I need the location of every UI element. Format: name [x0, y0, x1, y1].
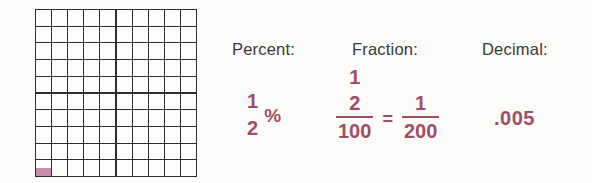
grid-cell	[117, 27, 132, 43]
percent-fraction-stack: 1 2	[247, 88, 258, 142]
grid-cell	[117, 160, 132, 176]
grid-cell	[84, 94, 99, 110]
grid-cell	[52, 60, 67, 76]
grid-cell	[84, 43, 99, 59]
grid-cell	[181, 27, 196, 43]
grid-cell	[84, 144, 99, 160]
grid-cell	[149, 160, 164, 176]
grid-cell	[181, 94, 196, 110]
grid-cell	[52, 144, 67, 160]
grid-cell	[36, 10, 51, 26]
grid-cell	[52, 10, 67, 26]
grid-cell	[117, 43, 132, 59]
percent-denominator: 2	[247, 115, 258, 142]
grid-cell	[165, 77, 180, 93]
grid-cell	[181, 110, 196, 126]
complex-fraction: 1 2 100	[336, 64, 373, 144]
grid-cell	[52, 94, 67, 110]
grid-cell	[100, 77, 115, 93]
grid-cell	[36, 27, 51, 43]
grid-cell	[149, 77, 164, 93]
grid-cell	[117, 144, 132, 160]
grid-cell	[68, 110, 83, 126]
grid-cell	[100, 94, 115, 110]
grid-cell	[68, 77, 83, 93]
grid-cell	[36, 60, 51, 76]
grid-cell	[133, 77, 148, 93]
grid-cell	[117, 10, 132, 26]
grid-cell	[68, 60, 83, 76]
grid-cell	[181, 10, 196, 26]
grid-cell	[181, 127, 196, 143]
grid-cell	[165, 127, 180, 143]
grid-cell	[165, 144, 180, 160]
grid-cell	[100, 144, 115, 160]
grid-cell	[36, 127, 51, 143]
grid-cell	[100, 43, 115, 59]
grid-cell	[133, 160, 148, 176]
grid-cell	[100, 160, 115, 176]
grid-cell	[181, 43, 196, 59]
percent-numerator: 1	[247, 88, 258, 115]
complex-numerator-top: 1	[349, 64, 360, 90]
grid-cell	[68, 94, 83, 110]
hundreds-grid	[35, 9, 197, 177]
grid-cell	[117, 77, 132, 93]
percent-label: Percent:	[232, 40, 295, 59]
grid-cell	[133, 60, 148, 76]
grid-cell	[181, 77, 196, 93]
decimal-label: Decimal:	[482, 40, 548, 59]
grid-cell	[68, 43, 83, 59]
result-denominator: 200	[402, 116, 439, 144]
percent-value: 1 2 %	[247, 88, 281, 142]
grid-cell	[133, 10, 148, 26]
grid-cell	[149, 144, 164, 160]
grid-cell	[149, 127, 164, 143]
grid-cell	[100, 60, 115, 76]
grid-cell	[36, 77, 51, 93]
grid-cell	[36, 43, 51, 59]
grid-cell	[68, 10, 83, 26]
grid-cell	[149, 60, 164, 76]
grid-cell	[100, 127, 115, 143]
grid-cell	[52, 77, 67, 93]
equals-sign: =	[382, 110, 393, 128]
fraction-equation: 1 2 100 = 1 200	[336, 64, 439, 144]
grid-cell	[149, 10, 164, 26]
complex-denominator: 100	[336, 116, 373, 144]
grid-cell	[36, 144, 51, 160]
grid-cell	[165, 94, 180, 110]
grid-cell	[133, 94, 148, 110]
grid-cell	[68, 127, 83, 143]
grid-cell	[133, 144, 148, 160]
grid-cell	[181, 60, 196, 76]
grid-cell	[165, 27, 180, 43]
percent-sign: %	[264, 105, 281, 127]
grid-cell	[84, 60, 99, 76]
complex-numerator-bottom: 2	[349, 90, 360, 116]
grid-cell	[165, 10, 180, 26]
grid-cell	[133, 43, 148, 59]
grid-cell	[84, 127, 99, 143]
grid-cell	[165, 110, 180, 126]
grid-cell	[36, 94, 51, 110]
grid-cell	[165, 160, 180, 176]
grid-cell	[149, 27, 164, 43]
grid-cell	[36, 110, 51, 126]
grid-cell	[52, 43, 67, 59]
grid-cell	[117, 94, 132, 110]
grid-cell	[181, 160, 196, 176]
grid-cell	[100, 110, 115, 126]
grid-cell	[149, 43, 164, 59]
grid-cell	[149, 110, 164, 126]
grid-cell	[100, 27, 115, 43]
decimal-value: .005	[494, 107, 535, 130]
figure-canvas: Percent: Fraction: Decimal: 1 2 % 1 2 10…	[0, 0, 592, 183]
grid-cell	[52, 110, 67, 126]
grid-cell	[181, 144, 196, 160]
grid-cell	[117, 110, 132, 126]
grid-cell	[52, 127, 67, 143]
grid-cell	[84, 10, 99, 26]
grid-cell	[133, 27, 148, 43]
result-fraction: 1 200	[402, 90, 439, 144]
